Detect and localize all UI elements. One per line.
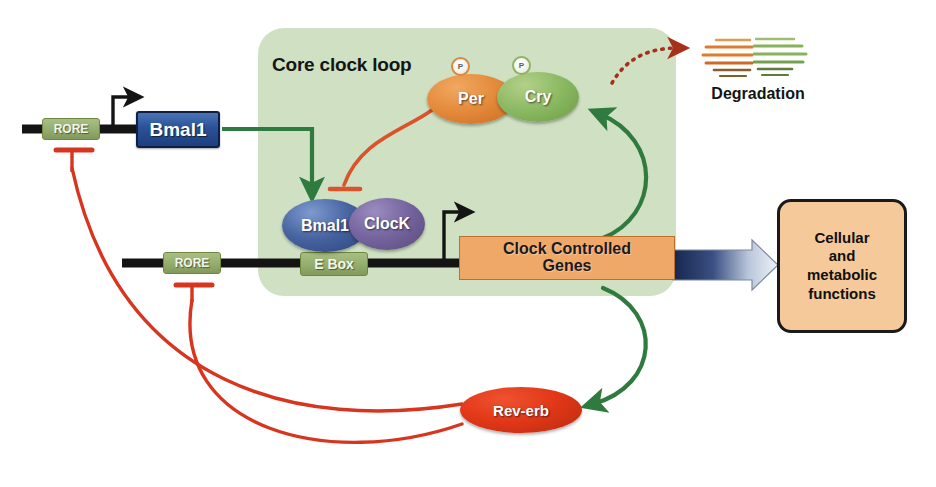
cellular-label-line4: functions	[808, 285, 876, 304]
rore-element-top[interactable]: RORE	[42, 118, 100, 140]
bmal1-to-ebox-activation	[222, 129, 312, 190]
ccg-to-percry-activation	[600, 114, 646, 238]
degradation-label: Degradation	[686, 83, 830, 105]
phosphate-icon-cry: P	[512, 56, 531, 75]
cellular-label-line1: Cellular	[814, 229, 869, 248]
ccg-label-line1: Clock Controlled	[503, 241, 631, 258]
rev-erb-protein[interactable]: Rev-erb	[460, 387, 582, 433]
bmal1-gene-box[interactable]: Bmal1	[136, 111, 220, 148]
reverb-inhibits-rore-bottom	[176, 285, 462, 442]
reverb-inhibits-rore-top	[56, 150, 462, 411]
e-box-element[interactable]: E Box	[300, 252, 368, 276]
diagram-canvas: Core clock loop	[0, 0, 936, 487]
rore-element-bottom[interactable]: RORE	[163, 252, 221, 274]
cellular-label-line3: metabolic	[807, 266, 877, 285]
bmal1-transcription-arrow	[113, 97, 133, 129]
percry-inhibits-ebox	[330, 110, 432, 189]
ccg-to-cellular-output-arrow	[673, 240, 778, 290]
percry-degradation-arrow	[612, 48, 678, 83]
clock-controlled-genes-box[interactable]: Clock Controlled Genes	[459, 236, 675, 280]
ccg-label-line2: Genes	[543, 258, 592, 275]
cry-protein[interactable]: Cry	[497, 72, 579, 122]
cellular-functions-box[interactable]: Cellular and metabolic functions	[777, 199, 907, 333]
clock-protein[interactable]: ClocK	[349, 198, 425, 250]
cellular-label-line2: and	[829, 247, 856, 266]
ccg-to-reverb-activation	[593, 288, 646, 404]
phosphate-icon-per: P	[451, 57, 470, 76]
degradation-fragments-icon	[698, 33, 816, 79]
